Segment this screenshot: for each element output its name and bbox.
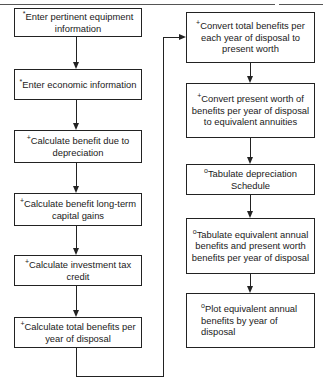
step-text: Plot equivalent annual benefits by year … — [201, 303, 297, 337]
connector — [76, 100, 77, 124]
step-convert-to-annuities: +Convert present worth of benefits per y… — [186, 83, 315, 138]
connector — [250, 138, 251, 158]
step-text: Tabulate depreciation Schedule — [208, 168, 297, 191]
step-text: Tabulate equivalent annual benefits and … — [192, 229, 309, 263]
arrow-down-icon — [247, 286, 253, 293]
connector — [250, 63, 251, 77]
step-calc-investment-tax-credit: +Calculate investment tax credit — [14, 255, 142, 286]
arrow-right-icon — [179, 34, 186, 40]
step-text: Calculate benefit due to depreciation — [31, 135, 130, 158]
step-text: Calculate total benefits per year of dis… — [25, 321, 136, 344]
loop-connector-down — [76, 348, 77, 377]
arrow-down-icon — [73, 62, 79, 69]
step-calc-total-benefits: +Calculate total benefits per year of di… — [14, 317, 142, 348]
step-enter-economic-info: *Enter economic information — [14, 69, 142, 100]
arrow-down-icon — [247, 76, 253, 83]
arrow-down-icon — [73, 123, 79, 130]
step-calc-depreciation-benefit: +Calculate benefit due to depreciation — [14, 130, 142, 163]
connector — [76, 226, 77, 249]
step-text: Calculate investment tax credit — [29, 259, 131, 282]
loop-connector-up — [163, 37, 164, 377]
step-convert-to-present-worth: +Convert total benefits per each year of… — [186, 12, 315, 63]
loop-connector-bottom — [76, 376, 164, 377]
step-text: Enter pertinent equipment information — [25, 11, 133, 34]
step-tabulate-depreciation: oTabulate depreciation Schedule — [186, 164, 315, 195]
connector — [76, 163, 77, 187]
top-rule-right — [279, 4, 323, 5]
arrow-down-icon — [73, 248, 79, 255]
top-rule — [0, 4, 275, 5]
connector — [76, 286, 77, 311]
step-plot-annual-benefits: oPlot equivalent annual benefits by year… — [186, 293, 315, 348]
arrow-down-icon — [73, 310, 79, 317]
step-text: Convert present worth of benefits per ye… — [192, 93, 309, 127]
loop-connector-top — [163, 37, 180, 38]
step-tabulate-annual-benefits: oTabulate equivalent annual benefits and… — [186, 218, 315, 274]
step-text: Convert total benefits per each year of … — [200, 20, 305, 54]
arrow-down-icon — [247, 157, 253, 164]
step-calc-capital-gains: +Calculate benefit long-term capital gai… — [14, 193, 142, 226]
step-enter-equipment-info: *Enter pertinent equipment information — [14, 8, 142, 37]
arrow-down-icon — [247, 211, 253, 218]
arrow-down-icon — [73, 186, 79, 193]
step-text: Enter economic information — [22, 79, 136, 90]
connector — [250, 195, 251, 212]
connector — [76, 37, 77, 63]
step-text: Calculate benefit long-term capital gain… — [24, 198, 136, 221]
